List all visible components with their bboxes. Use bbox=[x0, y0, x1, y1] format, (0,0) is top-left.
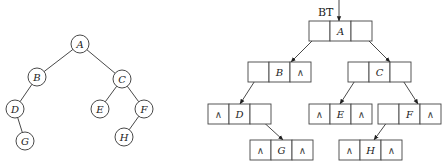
null-pointer-icon: ∧ bbox=[299, 145, 306, 156]
node-label: H bbox=[119, 132, 129, 143]
tree-edge-a-b bbox=[44, 49, 73, 71]
node-label: B bbox=[32, 72, 40, 83]
tree-edge-c-f bbox=[127, 86, 138, 101]
tree-node-c: C bbox=[113, 70, 131, 88]
data-field: B bbox=[275, 67, 283, 78]
tree-node-e: E bbox=[91, 100, 109, 118]
linked-node-a: A bbox=[309, 21, 372, 41]
tree-node-f: F bbox=[135, 100, 153, 118]
node-label: A bbox=[75, 39, 83, 50]
data-field: H bbox=[365, 145, 375, 156]
data-field: D bbox=[234, 109, 243, 120]
node-label: E bbox=[95, 104, 104, 115]
linked-node-f: F∧ bbox=[378, 104, 441, 124]
data-field: C bbox=[376, 67, 384, 78]
tree-edge-f-h bbox=[129, 116, 139, 129]
tree-edge-b-d bbox=[20, 84, 32, 101]
null-pointer-icon: ∧ bbox=[346, 145, 353, 156]
tree-node-d: D bbox=[6, 100, 24, 118]
linked-node-c: C bbox=[348, 62, 411, 82]
binary-tree-diagram: ABCDEFGH AB∧C∧D∧E∧F∧∧G∧∧H∧ BT bbox=[0, 0, 446, 168]
data-field: F bbox=[405, 109, 414, 120]
linked-node-h: ∧H∧ bbox=[339, 140, 402, 160]
data-field: A bbox=[336, 26, 344, 37]
node-label: D bbox=[10, 104, 19, 115]
null-pointer-icon: ∧ bbox=[358, 109, 365, 120]
left-cell bbox=[309, 21, 330, 41]
tree-node-a: A bbox=[71, 35, 89, 53]
null-pointer-icon: ∧ bbox=[388, 145, 395, 156]
linked-node-d: ∧D bbox=[208, 104, 271, 124]
node-label: G bbox=[21, 136, 29, 147]
tree-node-h: H bbox=[115, 128, 133, 146]
right-cell bbox=[250, 104, 271, 124]
null-pointer-icon: ∧ bbox=[427, 109, 434, 120]
tree-edge-a-c bbox=[87, 50, 115, 73]
left-cell bbox=[378, 104, 399, 124]
tree-node-b: B bbox=[28, 68, 46, 86]
linked-node-e: ∧E∧ bbox=[309, 104, 372, 124]
tree-edge-d-g bbox=[18, 118, 23, 133]
data-field: G bbox=[278, 145, 286, 156]
data-field: E bbox=[336, 109, 345, 120]
right-cell bbox=[390, 62, 411, 82]
linked-storage-nodes: AB∧C∧D∧E∧F∧∧G∧∧H∧ bbox=[208, 21, 441, 160]
right-cell bbox=[351, 21, 372, 41]
node-label: F bbox=[140, 104, 149, 115]
linked-node-b: B∧ bbox=[248, 62, 311, 82]
left-cell bbox=[348, 62, 369, 82]
linked-node-g: ∧G∧ bbox=[250, 140, 313, 160]
null-pointer-icon: ∧ bbox=[257, 145, 264, 156]
null-pointer-icon: ∧ bbox=[316, 109, 323, 120]
null-pointer-icon: ∧ bbox=[297, 67, 304, 78]
tree-edge-c-e bbox=[105, 86, 116, 101]
null-pointer-icon: ∧ bbox=[215, 109, 222, 120]
left-cell bbox=[248, 62, 269, 82]
tree-edges bbox=[18, 49, 139, 132]
root-pointer-label: BT bbox=[318, 6, 334, 19]
tree-nodes: ABCDEFGH bbox=[6, 35, 153, 150]
node-label: C bbox=[118, 74, 126, 85]
tree-node-g: G bbox=[16, 132, 34, 150]
